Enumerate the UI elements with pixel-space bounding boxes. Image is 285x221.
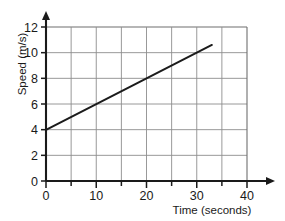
y-tick-label: 0 <box>31 175 38 189</box>
x-tick-label: 20 <box>140 189 154 203</box>
x-tick-label: 40 <box>240 189 254 203</box>
y-tick-label: 8 <box>31 72 38 86</box>
y-tick-label: 2 <box>31 149 38 163</box>
x-axis-arrow-icon <box>266 177 275 185</box>
x-axis-tick-labels: 0 10 20 30 40 <box>43 189 254 203</box>
x-axis-title: Time (seconds) <box>173 204 252 216</box>
x-tick-label: 0 <box>43 189 50 203</box>
speed-time-chart: 0 2 4 6 8 10 12 0 10 20 30 40 Time (seco… <box>0 0 285 221</box>
chart-canvas: 0 2 4 6 8 10 12 0 10 20 30 40 Time (seco… <box>0 0 285 221</box>
grid-lines <box>46 27 247 181</box>
x-tick-label: 30 <box>190 189 204 203</box>
axes <box>42 11 275 185</box>
y-tick-label: 4 <box>31 123 38 137</box>
y-tick-label: 6 <box>31 98 38 112</box>
y-axis-arrow-icon <box>42 11 50 20</box>
tick-marks <box>41 27 247 188</box>
x-tick-label: 10 <box>89 189 103 203</box>
y-axis-title: Speed (m/s) <box>16 33 28 96</box>
y-tick-label: 12 <box>24 21 38 35</box>
